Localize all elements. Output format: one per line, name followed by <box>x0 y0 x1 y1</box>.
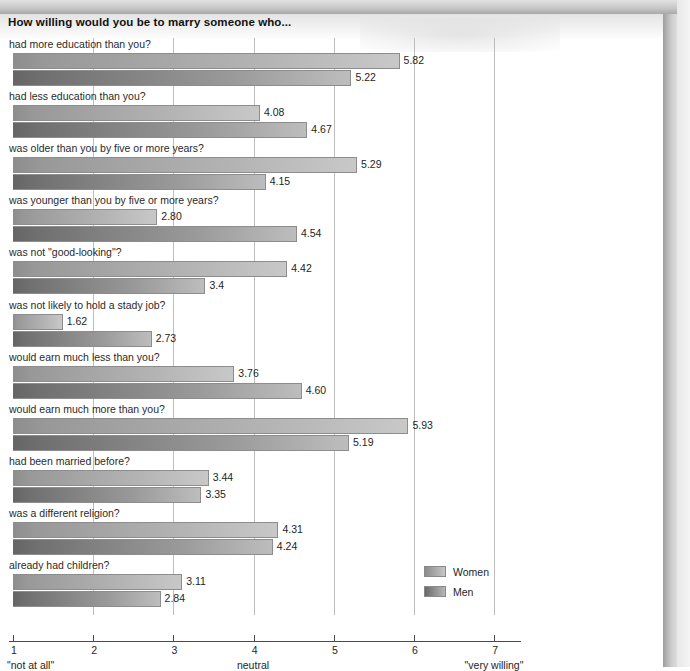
category-label: already had children? <box>9 559 109 571</box>
x-axis-line <box>9 641 521 642</box>
page-edge-right <box>663 14 677 667</box>
bar-men[interactable] <box>13 383 302 399</box>
bar-men[interactable] <box>13 331 152 347</box>
category-group: had more education than you?5.825.22 <box>0 38 640 90</box>
axis-annotation-neutral: neutral <box>237 659 269 671</box>
category-group: was not likely to hold a stady job?1.622… <box>0 299 640 351</box>
bar-value-label: 5.19 <box>353 436 373 448</box>
bar-value-label: 3.44 <box>213 471 233 483</box>
bar-value-label: 2.73 <box>156 332 176 344</box>
axis-annotation-high: "very willing" <box>465 659 524 671</box>
bar-value-label: 4.67 <box>311 123 331 135</box>
bar-value-label: 3.35 <box>205 488 225 500</box>
bar-women[interactable] <box>13 418 408 434</box>
bar-women[interactable] <box>13 522 278 538</box>
tick-6 <box>414 635 415 642</box>
bar-men[interactable] <box>13 539 273 555</box>
tick-5 <box>334 635 335 642</box>
bar-value-label: 3.11 <box>186 575 206 587</box>
tick-1 <box>13 635 14 642</box>
bar-value-label: 5.29 <box>361 158 381 170</box>
tick-label-1: 1 <box>11 644 17 656</box>
bar-men[interactable] <box>13 278 205 294</box>
bar-value-label: 1.62 <box>67 315 87 327</box>
bar-value-label: 4.54 <box>301 227 321 239</box>
bar-value-label: 5.82 <box>404 54 424 66</box>
category-label: had more education than you? <box>9 38 151 50</box>
bar-women[interactable] <box>13 209 157 225</box>
chart-legend: WomenMen <box>424 563 489 603</box>
bar-women[interactable] <box>13 574 182 590</box>
category-label: was older than you by five or more years… <box>9 142 204 154</box>
tick-label-3: 3 <box>171 644 177 656</box>
category-label: was not likely to hold a stady job? <box>9 299 165 311</box>
bar-value-label: 4.15 <box>270 175 290 187</box>
legend-label-women: Women <box>453 566 489 578</box>
chart-title: How willing would you be to marry someon… <box>8 16 291 28</box>
bar-value-label: 3.76 <box>238 367 258 379</box>
category-group: was a different religion?4.314.24 <box>0 507 640 559</box>
category-group: was older than you by five or more years… <box>0 142 640 194</box>
bar-value-label: 2.80 <box>161 210 181 222</box>
legend-item-men[interactable]: Men <box>424 583 489 600</box>
bar-women[interactable] <box>13 157 357 173</box>
page-outer-margin <box>677 0 690 667</box>
bar-women[interactable] <box>13 470 209 486</box>
category-group: had been married before?3.443.35 <box>0 455 640 507</box>
plot-area: had more education than you?5.825.22had … <box>0 32 663 615</box>
tick-4 <box>254 635 255 642</box>
page-edge-top <box>0 0 677 14</box>
bar-men[interactable] <box>13 174 266 190</box>
category-label: would earn much more than you? <box>9 403 165 415</box>
bar-value-label: 5.22 <box>355 71 375 83</box>
category-label: would earn much less than you? <box>9 351 160 363</box>
category-group: would earn much more than you?5.935.19 <box>0 403 640 455</box>
bar-value-label: 4.24 <box>277 540 297 552</box>
bar-men[interactable] <box>13 226 297 242</box>
bar-men[interactable] <box>13 435 349 451</box>
category-group: was younger than you by five or more yea… <box>0 194 640 246</box>
category-group: would earn much less than you?3.764.60 <box>0 351 640 403</box>
legend-item-women[interactable]: Women <box>424 563 489 580</box>
bar-women[interactable] <box>13 53 400 69</box>
bar-value-label: 2.84 <box>165 592 185 604</box>
category-group: was not "good-looking"?4.423.4 <box>0 246 640 298</box>
legend-swatch-women <box>424 566 446 577</box>
tick-label-7: 7 <box>492 644 498 656</box>
bar-men[interactable] <box>13 487 201 503</box>
bar-women[interactable] <box>13 366 234 382</box>
category-label: was a different religion? <box>9 507 120 519</box>
axis-annotation-low: "not at all" <box>7 659 54 671</box>
bar-chart: How willing would you be to marry someon… <box>0 14 663 667</box>
bar-value-label: 4.31 <box>282 523 302 535</box>
category-group: already had children?3.112.84 <box>0 559 640 611</box>
category-group: had less education than you?4.084.67 <box>0 90 640 142</box>
tick-3 <box>173 635 174 642</box>
bar-value-label: 4.08 <box>264 106 284 118</box>
tick-label-2: 2 <box>91 644 97 656</box>
category-label: had been married before? <box>9 455 130 467</box>
tick-label-5: 5 <box>332 644 338 656</box>
bar-women[interactable] <box>13 261 287 277</box>
legend-swatch-men <box>424 586 446 597</box>
bar-men[interactable] <box>13 70 351 86</box>
tick-7 <box>494 635 495 642</box>
bar-value-label: 3.4 <box>209 279 224 291</box>
bar-men[interactable] <box>13 591 161 607</box>
bar-value-label: 5.93 <box>412 419 432 431</box>
tick-label-6: 6 <box>412 644 418 656</box>
tick-2 <box>93 635 94 642</box>
category-label: had less education than you? <box>9 90 146 102</box>
bar-men[interactable] <box>13 122 307 138</box>
bar-women[interactable] <box>13 314 63 330</box>
category-label: was younger than you by five or more yea… <box>9 194 219 206</box>
tick-label-4: 4 <box>252 644 258 656</box>
legend-label-men: Men <box>453 586 473 598</box>
bar-value-label: 4.60 <box>306 384 326 396</box>
bar-women[interactable] <box>13 105 260 121</box>
category-label: was not "good-looking"? <box>9 246 122 258</box>
bar-value-label: 4.42 <box>291 262 311 274</box>
